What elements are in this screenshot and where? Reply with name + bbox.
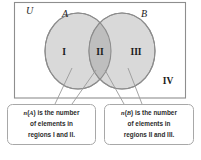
callout-a-line-2: of elements in <box>30 120 73 127</box>
callout-b-line-2: of elements in <box>128 120 171 127</box>
region-label-ii: II <box>96 47 104 57</box>
callout-a: n(A) is the number of elements in region… <box>8 105 96 145</box>
set-b-label: B <box>141 8 147 19</box>
region-label-iv: IV <box>163 76 174 86</box>
callout-b-line-1: n(B) is the number <box>121 109 177 117</box>
venn-diagram-figure: U A B I II III IV n(A) is the number of … <box>0 0 201 160</box>
callout-b: n(B) is the number of elements in region… <box>105 105 194 145</box>
universe-label: U <box>26 5 34 16</box>
set-a-label: A <box>61 8 69 19</box>
venn-diagram-canvas: U A B I II III IV n(A) is the number of … <box>0 0 201 160</box>
callout-a-line-3: regions I and II. <box>28 131 75 139</box>
region-label-iii: III <box>130 47 141 57</box>
callout-b-line-3: regions II and III. <box>124 131 175 139</box>
callout-a-line-1: n(A) is the number <box>24 109 80 117</box>
region-label-i: I <box>62 47 66 57</box>
